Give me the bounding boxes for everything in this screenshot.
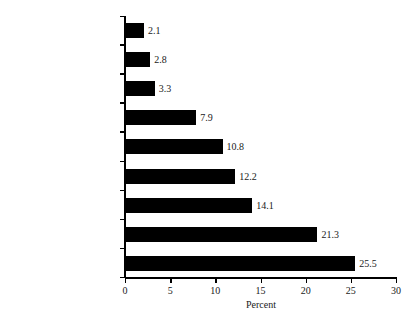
bar-row[interactable]: Disrupt Education/Job10.8 (125, 132, 396, 161)
bar[interactable] (125, 139, 223, 154)
bar[interactable] (125, 227, 317, 242)
y-axis-tick (120, 16, 125, 17)
x-axis-tick-label: 10 (195, 285, 235, 296)
bar[interactable] (125, 110, 196, 125)
x-axis-tick (351, 278, 352, 283)
x-axis-tick (215, 278, 216, 283)
bar-row[interactable]: Problems w/ Partner14.1 (125, 191, 396, 220)
bar-row[interactable]: Other2.1 (125, 16, 396, 45)
x-axis-title: Percent (125, 299, 397, 310)
bar[interactable] (125, 256, 355, 271)
bar[interactable] (125, 52, 150, 67)
x-axis-tick-label: 30 (376, 285, 416, 296)
bar[interactable] (125, 81, 155, 96)
x-axis-tick-label: 0 (105, 285, 145, 296)
bar-row[interactable]: Postpone Childbearing25.5 (125, 249, 396, 278)
bar-row[interactable]: Cannot Afford a Child21.3 (125, 220, 396, 249)
bar-value-label: 25.5 (359, 254, 377, 273)
bar-value-label: 2.1 (148, 21, 161, 40)
x-axis-tick (125, 278, 126, 283)
x-axis-tick (170, 278, 171, 283)
x-axis-tick (306, 278, 307, 283)
x-axis-tick-label: 20 (286, 285, 326, 296)
x-axis-tick-label: 5 (150, 285, 190, 296)
bar[interactable] (125, 198, 252, 213)
bar-chart-figure: Other2.1Risk to Maternal Health2.8Risk t… (0, 0, 418, 320)
plot-area: Other2.1Risk to Maternal Health2.8Risk t… (125, 16, 396, 278)
bar[interactable] (125, 169, 235, 184)
x-axis-tick (396, 278, 397, 283)
bar-value-label: 21.3 (321, 225, 339, 244)
bar[interactable] (125, 23, 144, 38)
bar-value-label: 3.3 (159, 79, 172, 98)
bar-value-label: 12.2 (239, 167, 257, 186)
bar-row[interactable]: Too Young; Parents Object12.2 (125, 162, 396, 191)
x-axis-tick-label: 25 (331, 285, 371, 296)
bar-row[interactable]: Risk to Maternal Health2.8 (125, 45, 396, 74)
bar-row[interactable]: Risk to Fetal Health3.3 (125, 74, 396, 103)
bar-value-label: 7.9 (200, 108, 213, 127)
bar-value-label: 10.8 (227, 137, 245, 156)
x-axis-tick (261, 278, 262, 283)
bar-value-label: 14.1 (256, 196, 274, 215)
bar-row[interactable]: Want No More Children7.9 (125, 103, 396, 132)
x-axis-tick-label: 15 (241, 285, 281, 296)
bar-value-label: 2.8 (154, 50, 167, 69)
